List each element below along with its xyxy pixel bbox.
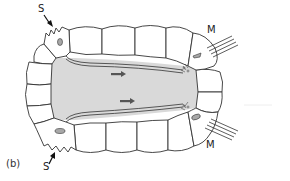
label-motor-top: M bbox=[207, 25, 216, 35]
left-cell-column bbox=[26, 44, 57, 124]
sensory-cell-bottom bbox=[34, 118, 76, 152]
panel-label: (b) bbox=[6, 159, 20, 169]
sensory-arrow-bottom bbox=[49, 152, 55, 164]
sensory-arrow-top bbox=[44, 15, 53, 27]
epithelium-cross-section-diagram bbox=[0, 0, 290, 181]
label-sensory-top: S bbox=[38, 4, 44, 14]
nucleus-icon bbox=[55, 129, 65, 134]
right-cell-column bbox=[196, 69, 223, 112]
nucleus-icon bbox=[58, 39, 63, 46]
label-sensory-bottom: S bbox=[43, 162, 49, 172]
label-motor-bottom: M bbox=[206, 140, 215, 150]
